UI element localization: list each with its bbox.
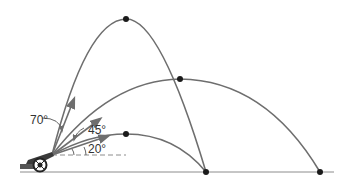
peak-point-45	[177, 76, 183, 82]
landing-point-short	[203, 169, 209, 175]
angle-label-20: 20°	[88, 142, 106, 156]
angle-arc-20b	[72, 149, 74, 155]
trajectory-70	[52, 19, 206, 172]
landing-point-long	[317, 169, 323, 175]
peak-point-20	[123, 131, 129, 137]
angle-label-45: 45°	[88, 123, 106, 137]
cannon-launcher-icon	[20, 152, 54, 172]
peak-point-70	[123, 16, 129, 22]
projectile-diagram: 70° 45° 20°	[0, 0, 342, 184]
angle-label-70: 70°	[30, 113, 48, 127]
trajectory-20	[52, 134, 206, 172]
angle-arc-20	[84, 147, 86, 155]
